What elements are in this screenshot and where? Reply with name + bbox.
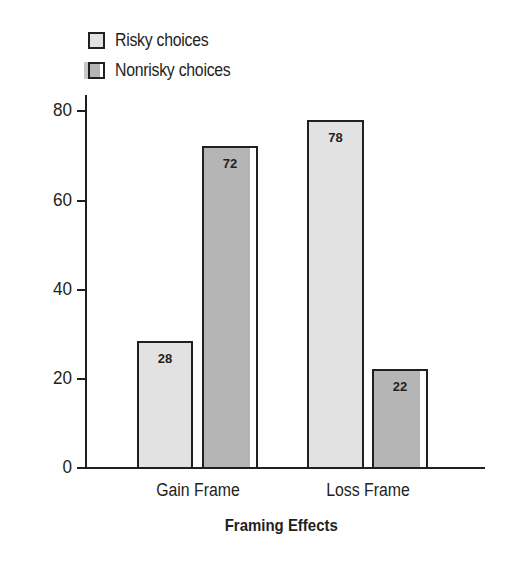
x-axis-title-text: Framing Effects bbox=[225, 516, 338, 536]
y-tick-label: 40 bbox=[40, 278, 72, 300]
legend-label-risky: Risky choices bbox=[115, 30, 208, 51]
y-tick-label: 20 bbox=[40, 367, 72, 389]
x-axis bbox=[85, 467, 485, 469]
bar-value-label: 28 bbox=[139, 351, 191, 366]
bar-gain-risky: 28 bbox=[137, 341, 193, 467]
y-tick bbox=[77, 200, 86, 202]
y-tick bbox=[77, 467, 86, 469]
x-axis-title: Framing Effects bbox=[0, 516, 508, 536]
legend-item-nonrisky: Nonrisky choices bbox=[88, 61, 246, 79]
legend-swatch-nonrisky bbox=[88, 62, 105, 79]
bar-value-label: 22 bbox=[374, 379, 426, 394]
y-tick-label: 80 bbox=[40, 99, 72, 121]
bar-value-label: 78 bbox=[309, 130, 362, 145]
legend-swatch-risky bbox=[88, 32, 105, 49]
x-category-label: Gain Frame bbox=[136, 480, 259, 501]
y-tick bbox=[77, 289, 86, 291]
y-tick bbox=[77, 378, 86, 380]
legend-label-nonrisky: Nonrisky choices bbox=[115, 60, 231, 81]
y-axis bbox=[85, 95, 87, 469]
x-category-label: Loss Frame bbox=[306, 480, 429, 501]
y-tick bbox=[77, 110, 86, 112]
bar-value-label: 72 bbox=[204, 156, 256, 171]
y-tick-label: 0 bbox=[40, 456, 72, 478]
bar-gain-nonrisky: 72 bbox=[202, 146, 258, 467]
legend-item-risky: Risky choices bbox=[88, 31, 221, 49]
bar-loss-nonrisky: 22 bbox=[372, 369, 428, 467]
bar-loss-risky: 78 bbox=[307, 120, 364, 467]
y-tick-label: 60 bbox=[40, 189, 72, 211]
